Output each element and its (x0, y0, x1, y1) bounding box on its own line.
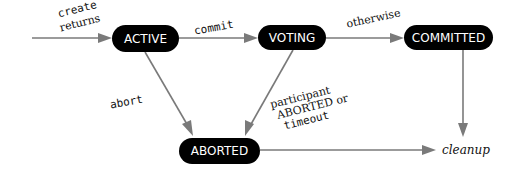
node-committed: COMMITTED (404, 25, 493, 50)
node-aborted: ABORTED (179, 138, 260, 164)
label-otherwise: otherwise (345, 6, 401, 30)
terminal-cleanup: cleanup (442, 143, 490, 157)
edge-committed-cleanup (458, 50, 468, 137)
node-active: ACTIVE (112, 25, 179, 52)
state-diagram: ACTIVE VOTING COMMITTED ABORTED cleanup … (0, 0, 517, 176)
label-commit: commit (193, 18, 234, 38)
label-abort: abort (109, 93, 144, 112)
node-aborted-label: ABORTED (191, 144, 248, 158)
node-voting: VOTING (258, 25, 326, 50)
label-abort-text: abort (109, 93, 144, 112)
label-commit-text: commit (193, 18, 234, 38)
edge-commit (179, 33, 258, 43)
edge-create (32, 33, 112, 43)
edge-aborted-cleanup (260, 145, 436, 155)
node-voting-label: VOTING (269, 31, 316, 45)
label-participant: participant ABORTED or timeout (269, 80, 353, 135)
node-committed-label: COMMITTED (412, 31, 485, 45)
node-active-label: ACTIVE (124, 32, 167, 46)
edge-abort (145, 52, 193, 136)
label-otherwise-text: otherwise (345, 6, 401, 30)
edge-otherwise (326, 33, 404, 43)
